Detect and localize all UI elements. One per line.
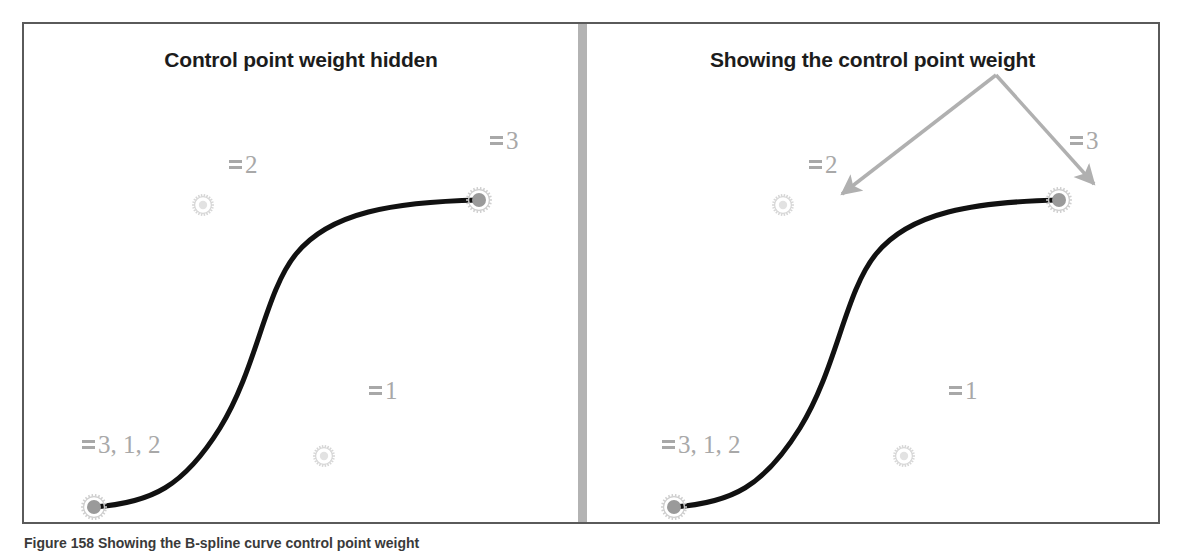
weight-label-text: 2 bbox=[245, 152, 258, 177]
bspline-curve bbox=[674, 200, 1059, 507]
endpoint-dot bbox=[1052, 193, 1066, 207]
panel-control-point-weight-hidden: Control point weight hidden 2313, 1, 2 bbox=[24, 24, 578, 522]
control-point-marker bbox=[772, 194, 794, 216]
weight-label-text: 1 bbox=[385, 378, 398, 403]
endpoint-dot bbox=[87, 500, 101, 514]
weight-bars-icon bbox=[662, 438, 675, 452]
weight-label: 3, 1, 2 bbox=[662, 432, 741, 457]
panel-showing-control-point-weight: Showing the control point weight 2313, 1… bbox=[587, 24, 1158, 522]
control-point-dot bbox=[320, 452, 328, 460]
weight-label-text: 3 bbox=[506, 128, 519, 153]
weight-bars-icon bbox=[809, 158, 822, 172]
endpoint-dot bbox=[667, 500, 681, 514]
weight-label: 3 bbox=[490, 128, 519, 153]
control-point-marker bbox=[313, 445, 335, 467]
weight-label: 1 bbox=[369, 378, 398, 403]
weight-label-text: 1 bbox=[965, 378, 978, 403]
weight-label: 2 bbox=[229, 152, 258, 177]
weight-bars-icon bbox=[1070, 134, 1083, 148]
curve-endpoint-markers bbox=[81, 187, 492, 520]
weight-label-text: 2 bbox=[825, 152, 838, 177]
weight-label: 2 bbox=[809, 152, 838, 177]
control-point-marker bbox=[192, 194, 214, 216]
figure-frame: Control point weight hidden 2313, 1, 2 S… bbox=[22, 22, 1160, 524]
curve-endpoint-markers bbox=[661, 187, 1072, 520]
bspline-curve bbox=[94, 200, 479, 507]
figure-caption: Figure 158 Showing the B-spline curve co… bbox=[24, 535, 419, 551]
figure-root: Control point weight hidden 2313, 1, 2 S… bbox=[0, 0, 1180, 553]
weight-label: 1 bbox=[949, 378, 978, 403]
endpoint-dot bbox=[472, 193, 486, 207]
weight-label: 3 bbox=[1070, 128, 1099, 153]
weight-bars-icon bbox=[82, 438, 95, 452]
control-point-dot bbox=[199, 201, 207, 209]
weight-label-text: 3, 1, 2 bbox=[98, 432, 161, 457]
annotation-arrows bbox=[842, 75, 1094, 194]
weight-bars-icon bbox=[369, 384, 382, 398]
control-point-dot bbox=[779, 201, 787, 209]
weight-label-text: 3 bbox=[1086, 128, 1099, 153]
weight-label-text: 3, 1, 2 bbox=[678, 432, 741, 457]
annotation-arrow-left bbox=[842, 75, 996, 194]
weight-bars-icon bbox=[490, 134, 503, 148]
panel-divider bbox=[578, 24, 587, 522]
weight-bars-icon bbox=[229, 158, 242, 172]
weight-bars-icon bbox=[949, 384, 962, 398]
weight-label: 3, 1, 2 bbox=[82, 432, 161, 457]
control-point-dot bbox=[900, 452, 908, 460]
control-point-marker bbox=[893, 445, 915, 467]
